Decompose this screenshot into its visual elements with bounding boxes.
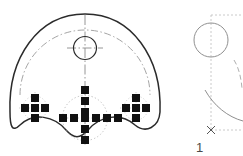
drawing-canvas: 1 [0, 0, 243, 156]
main-view [10, 14, 160, 146]
bolt-marker [132, 94, 140, 102]
bolt-marker [81, 86, 89, 94]
bolt-marker [132, 114, 140, 122]
bolt-marker [81, 125, 89, 133]
bolt-marker [114, 114, 122, 122]
bolt-marker [103, 114, 111, 122]
bolt-marker [21, 104, 29, 112]
detail-construction-box [211, 15, 243, 130]
bolt-marker [31, 104, 39, 112]
center-bolt-cluster [59, 86, 122, 144]
bolt-marker [122, 104, 130, 112]
bolt-marker [59, 114, 67, 122]
bolt-marker [92, 114, 100, 122]
bolt-marker [31, 114, 39, 122]
bolt-marker [81, 114, 89, 122]
bolt-marker [31, 94, 39, 102]
bolt-marker [70, 114, 78, 122]
bolt-marker [132, 104, 140, 112]
cad-drawing-svg: 1 [0, 0, 243, 156]
detail-view-right: 1 [194, 15, 243, 155]
bolt-marker [81, 97, 89, 105]
detail-label-1: 1 [196, 140, 203, 155]
detail-arc-small [234, 60, 242, 88]
bolt-marker [142, 104, 150, 112]
bolt-marker [41, 104, 49, 112]
bolt-marker [81, 136, 89, 144]
right-bolt-cluster [122, 94, 150, 122]
